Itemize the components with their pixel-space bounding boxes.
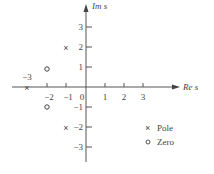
imaginary-axis-label: Im s <box>91 1 108 11</box>
y-tick-label: −2 <box>73 122 83 132</box>
y-tick-label: −3 <box>73 142 83 152</box>
y-tick-label: 3 <box>79 22 84 32</box>
x-tick-label: 0 <box>80 92 85 102</box>
y-tick-label: 1 <box>79 62 84 72</box>
legend-pole-icon: × <box>145 123 150 133</box>
x-tick-label: 2 <box>122 92 127 102</box>
x-tick-label: −1 <box>63 92 73 102</box>
real-axis-arrow-icon <box>172 85 180 90</box>
pole-marker-icon: × <box>63 43 68 53</box>
legend-pole-label: Pole <box>157 123 173 133</box>
real-axis-label: Re s <box>182 82 199 92</box>
x-ticks <box>47 83 143 87</box>
y-tick-label: −1 <box>73 102 83 112</box>
pole-marker-icon: × <box>24 83 29 93</box>
imaginary-axis-arrow-icon <box>84 4 89 12</box>
pole-zero-diagram: −2 −1 0 1 2 3 3 2 1 −1 −2 −3 −3 Im s Re … <box>0 0 214 174</box>
legend: × Pole Zero <box>145 123 174 147</box>
zero-marker-icon <box>45 67 49 71</box>
x-tick-label: 1 <box>103 92 108 102</box>
legend-zero-label: Zero <box>157 137 174 147</box>
x-tick-label: 3 <box>141 92 146 102</box>
legend-zero-icon <box>146 140 150 144</box>
pole-marker-icon: × <box>63 123 68 133</box>
x-tick-label: −2 <box>44 92 54 102</box>
y-tick-label: 2 <box>79 42 84 52</box>
zero-marker-icon <box>45 105 49 109</box>
x-tick-label-neg3: −3 <box>22 72 32 82</box>
